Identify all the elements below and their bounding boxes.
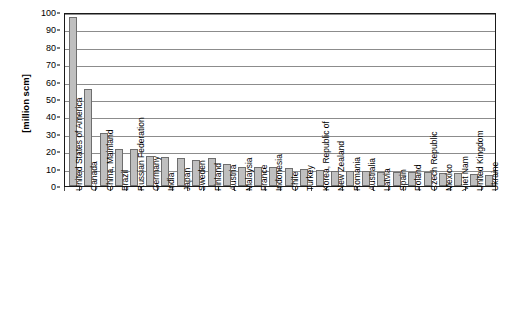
x-category-label: Japan [183, 168, 192, 191]
x-category-label: India [167, 173, 176, 191]
y-tick-mark [57, 134, 60, 135]
y-tick-label: 50 [46, 95, 56, 105]
x-category-label: Viet Nam [461, 156, 470, 191]
x-category-label: Latvia [383, 168, 392, 191]
x-category-label: Canada [90, 161, 99, 191]
x-category-label: Finland [214, 163, 223, 191]
x-category-label: United Kingdom [476, 131, 485, 191]
y-tick-label: 40 [46, 112, 56, 122]
y-tick-mark [57, 30, 60, 31]
x-category-label: Russian Federation [137, 117, 146, 191]
y-tick-mark [57, 65, 60, 66]
x-category-label: Brazil [121, 170, 130, 191]
x-category-label: United States of America [75, 97, 84, 191]
x-category-label: Turkey [306, 165, 315, 191]
x-category-label: Germany [152, 156, 161, 191]
x-category-label: Sweden [198, 160, 207, 191]
y-tick-mark [57, 169, 60, 170]
y-tick-label: 10 [46, 165, 56, 175]
x-category-label: Korea, Republic of [322, 121, 331, 191]
x-category-label: Mexico [445, 164, 454, 191]
x-axis-category-labels: United States of AmericaCanadaChina, Mai… [64, 191, 496, 311]
x-category-label: China, Mainland [106, 130, 115, 191]
x-category-label: Indonesia [275, 154, 284, 191]
y-tick-mark [57, 187, 60, 188]
x-category-label: Chile [291, 172, 300, 191]
x-category-label: Czech Republic [430, 131, 439, 191]
x-category-label: France [260, 165, 269, 191]
y-tick-mark [57, 13, 60, 14]
y-axis-tick-labels: 0102030405060708090100 [30, 13, 60, 187]
x-category-label: Austria [229, 165, 238, 191]
y-tick-label: 90 [46, 25, 56, 35]
x-category-label: Australia [368, 158, 377, 191]
x-category-label: Poland [414, 165, 423, 191]
y-tick-label: 30 [46, 130, 56, 140]
y-tick-label: 80 [46, 43, 56, 53]
y-tick-mark [57, 82, 60, 83]
y-axis-title-text: [million scm] [20, 74, 31, 133]
x-category-label: New Zealand [337, 141, 346, 191]
x-category-label: Spain [399, 169, 408, 191]
y-tick-label: 70 [46, 60, 56, 70]
y-tick-label: 100 [41, 8, 56, 18]
y-tick-label: 60 [46, 78, 56, 88]
bar-chart-figure: [million scm] 0102030405060708090100 Uni… [0, 0, 512, 317]
x-category-label: Ukraine [491, 162, 500, 191]
y-tick-mark [57, 47, 60, 48]
y-tick-mark [57, 100, 60, 101]
y-tick-mark [57, 152, 60, 153]
y-tick-mark [57, 117, 60, 118]
x-category-label: Romania [353, 157, 362, 191]
y-tick-label: 0 [51, 182, 56, 192]
y-tick-label: 20 [46, 147, 56, 157]
x-category-label: Malaysia [245, 157, 254, 191]
